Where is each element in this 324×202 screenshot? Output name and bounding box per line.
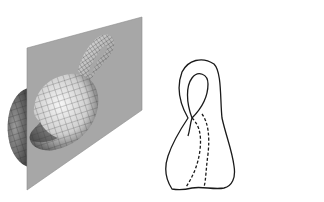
mobius-strips-illustration	[162, 0, 324, 202]
mobius-strips-svg	[162, 0, 324, 202]
klein-bottle-svg	[0, 0, 162, 202]
klein-bottle-illustration	[0, 0, 162, 202]
mobius-strip-left	[166, 60, 235, 190]
